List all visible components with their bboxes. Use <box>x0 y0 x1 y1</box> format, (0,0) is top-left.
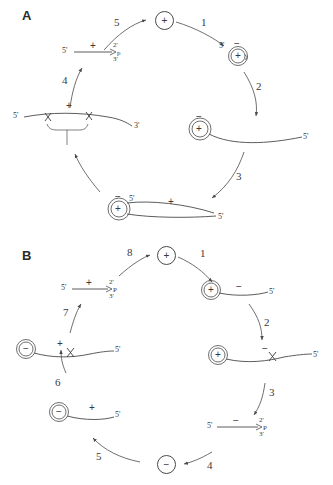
panel-a-step-4-label: 4 <box>62 74 68 86</box>
panel-a-circ2-outer-sign: − <box>196 112 202 122</box>
panel-b-step-6-label: 6 <box>55 376 61 388</box>
panel-a-graphics <box>0 0 333 240</box>
panel-b-circ5-inner-sign: − <box>56 407 62 417</box>
panel-a-arrow-1 <box>176 22 224 46</box>
panel-b-graphics <box>0 240 333 485</box>
panel-a-step-3-label: 3 <box>236 170 242 182</box>
panel-b-arrow-3 <box>254 383 265 415</box>
panel-b-circ2-strand-sign: − <box>262 344 268 354</box>
panel-b-minus-cyclic-bottom: 3' <box>259 431 264 438</box>
panel-b-plus-cyclic-top: 2' <box>109 279 114 286</box>
panel-b-circ4-strand-sign: + <box>57 339 63 349</box>
panel-a-duplex-end-label-1: 5' <box>13 111 18 120</box>
panel-a-arrow-5 <box>104 20 146 50</box>
panel-b-minus-linear-strand-sign: − <box>233 416 239 426</box>
panel-a-species-linear-duplex <box>24 112 132 145</box>
panel-b-step-5-label: 5 <box>96 450 102 462</box>
panel-a-cleavage-mark-2 <box>86 112 92 120</box>
panel-b-step-2-label: 2 <box>264 316 270 328</box>
panel-b-cleavage-mark-left <box>67 348 74 357</box>
panel-a-circ3-end-label-1: 5' <box>129 194 134 203</box>
panel-b-arrow-1 <box>178 257 212 282</box>
panel-b-step-7-label: 7 <box>63 306 69 318</box>
panel-b-circ2-end-label: 5' <box>313 350 318 359</box>
panel-a-duplex-end-label-2: 3' <box>134 121 139 130</box>
panel-a-arrow-4-lower <box>75 154 100 192</box>
panel-b-arrow-7 <box>70 304 81 333</box>
panel-b-species-minus-linear <box>217 424 262 430</box>
panel-b-circ4-inner-sign: − <box>23 344 29 354</box>
panel-b-circ1-strand-sign: − <box>236 282 242 292</box>
panel-b-step-8-label: 8 <box>127 246 133 258</box>
panel-a-circ3-strand-sign: + <box>168 197 174 207</box>
panel-b-circ1-end-label: 5' <box>269 287 274 296</box>
panel-a-species-circ-two-tails <box>108 198 216 220</box>
panel-b-circ5-strand-sign: + <box>89 403 95 413</box>
panel-b-circ2-inner-sign: + <box>215 350 221 360</box>
panel-a-circ3-outer-sign: − <box>115 192 121 202</box>
panel-a-circ1-outer-sign: − <box>234 39 240 49</box>
panel-a-cyclic-top: 2' <box>113 42 118 49</box>
panel-a-cyclic-bottom: 3' <box>113 56 118 63</box>
panel-a-circ1-inner-sign: + <box>235 51 241 61</box>
panel-b-plus-linear-end-label: 5' <box>61 283 66 292</box>
panel-b-circ4-end-label: 5' <box>115 345 120 354</box>
panel-a-duplex-strand-sign: + <box>66 101 72 111</box>
panel-a-short-strand-sign: + <box>90 41 96 51</box>
panel-b-step-4-label: 4 <box>207 459 213 471</box>
panel-a-step-1-label: 1 <box>201 16 207 28</box>
panel-a-arrow-2 <box>244 72 257 116</box>
panel-b-arrow-8 <box>119 255 150 276</box>
panel-a-species-circ-with-tail <box>189 118 302 143</box>
panel-b-plus-linear-strand-sign: + <box>86 278 92 288</box>
panel-b-minus-linear-end-label: 5' <box>207 421 212 430</box>
panel-b-circ1-inner-sign: + <box>208 285 214 295</box>
panel-a-circ2-end-label: 5' <box>303 132 308 141</box>
panel-b-arrow-2 <box>249 304 262 340</box>
panel-a: A + <box>0 0 333 240</box>
panel-a-circ2-inner-sign: + <box>196 124 202 134</box>
panel-b-arrow-6 <box>61 350 66 373</box>
panel-a-step-5-label: 5 <box>114 16 120 28</box>
panel-a-circ3-end-label-2: 5' <box>218 212 223 221</box>
panel-b-step-1-label: 1 <box>200 247 206 259</box>
panel-a-circ1-end-label: 5' <box>219 41 224 50</box>
panel-b-species-minus-circ-tail-cleaved <box>17 340 115 359</box>
panel-b: B + − <box>0 240 333 485</box>
panel-b-step-3-label: 3 <box>269 386 275 398</box>
panel-b-species-plus-circ-tail-cleaved <box>209 346 313 365</box>
panel-a-short-end-label: 5' <box>62 46 67 55</box>
panel-a-circ3-inner-sign: + <box>115 204 121 214</box>
panel-b-circ5-end-label: 5' <box>115 410 120 419</box>
panel-b-species-plus-linear <box>72 286 112 292</box>
panel-a-step-2-label: 2 <box>256 80 262 92</box>
panel-b-plus-cyclic-bottom: 3' <box>109 293 114 300</box>
panel-b-minus-cyclic-top: 2' <box>259 417 264 424</box>
